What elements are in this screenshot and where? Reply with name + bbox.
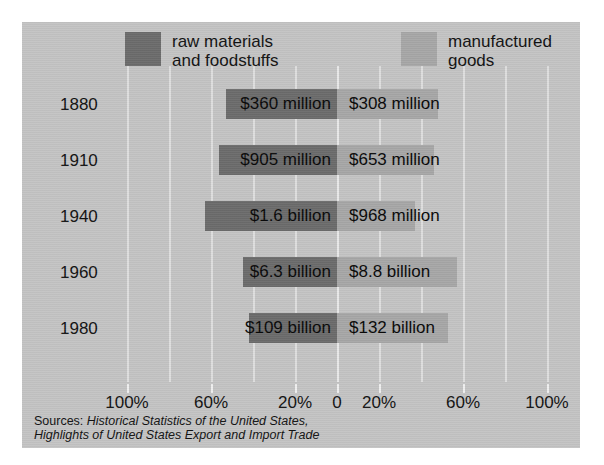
legend-label-manufactured-goods: manufactured goods <box>448 32 552 70</box>
bar-value-label-mfg: $132 billion <box>349 318 435 340</box>
legend-item-raw-materials: raw materials and foodstuffs <box>125 32 279 70</box>
axis-tick-label: 100% <box>105 393 148 413</box>
axis-tick-label: 20% <box>278 393 312 413</box>
manufactured-goods-swatch-icon <box>401 32 437 66</box>
bar-value-label-mfg: $653 million <box>349 150 440 172</box>
bar-value-label-mfg: $308 million <box>349 94 440 116</box>
chart-legend: raw materials and foodstuffs manufacture… <box>22 26 580 78</box>
legend-item-manufactured-goods: manufactured goods <box>401 32 552 70</box>
legend-label-raw-materials: raw materials and foodstuffs <box>172 32 279 70</box>
sources-title-1: Historical Statistics of the United Stat… <box>87 414 309 428</box>
bar-value-label-raw: $6.3 billion <box>250 262 331 284</box>
chart-row: 1980$109 billion$132 billion <box>22 304 580 360</box>
sources-title-2: Highlights of United States Export and I… <box>34 428 319 442</box>
axis-tick <box>463 384 465 393</box>
chart-rows: 1880$360 million$308 million1910$905 mil… <box>22 80 580 380</box>
bar-value-label-raw: $905 million <box>240 150 331 172</box>
bar-value-label-mfg: $968 million <box>349 206 440 228</box>
chart-row: 1880$360 million$308 million <box>22 80 580 136</box>
axis-tick-label: 20% <box>362 393 396 413</box>
bar-value-label-mfg: $8.8 billion <box>349 262 430 284</box>
axis-tick-label: 60% <box>194 393 228 413</box>
chart-row: 1960$6.3 billion$8.8 billion <box>22 248 580 304</box>
bar-value-label-raw: $109 billion <box>245 318 331 340</box>
chart-row: 1940$1.6 billion$968 million <box>22 192 580 248</box>
axis-tick <box>337 384 339 393</box>
row-year-label: 1880 <box>60 95 126 115</box>
row-year-label: 1980 <box>60 319 126 339</box>
sources-lead: Sources: <box>34 414 87 428</box>
row-year-label: 1910 <box>60 151 126 171</box>
x-axis: 100%60%20%020%60%100% <box>22 384 580 414</box>
axis-tick <box>127 384 129 393</box>
chart-panel: raw materials and foodstuffs manufacture… <box>22 22 580 448</box>
chart-screenshot: raw materials and foodstuffs manufacture… <box>0 0 604 465</box>
axis-tick <box>295 384 297 393</box>
axis-tick-label: 60% <box>446 393 480 413</box>
axis-tick-label: 100% <box>525 393 568 413</box>
raw-materials-swatch-icon <box>125 32 161 66</box>
row-year-label: 1960 <box>60 263 126 283</box>
chart-row: 1910$905 million$653 million <box>22 136 580 192</box>
sources-note: Sources: Historical Statistics of the Un… <box>34 414 554 442</box>
axis-tick <box>547 384 549 393</box>
axis-tick <box>379 384 381 393</box>
row-year-label: 1940 <box>60 207 126 227</box>
bar-value-label-raw: $1.6 billion <box>250 206 331 228</box>
bar-value-label-raw: $360 million <box>240 94 331 116</box>
axis-tick-label: 0 <box>332 393 341 413</box>
axis-tick <box>211 384 213 393</box>
